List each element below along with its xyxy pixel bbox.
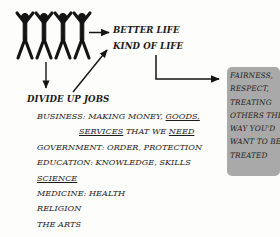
label-kind-of-life: KIND OF LIFE (113, 42, 183, 51)
stick-figure-2 (36, 13, 52, 58)
callout-line: WAY YOU'D (230, 122, 280, 135)
job-line-business: BUSINESS: MAKING MONEY, GOODS, (37, 109, 227, 124)
job-segment: BUSINESS: MAKING MONEY, (37, 111, 166, 121)
arrow-to-callout (156, 55, 219, 79)
job-segment: MEDICINE: HEALTH (37, 188, 125, 198)
stick-figures-group (14, 8, 96, 62)
jobs-list: BUSINESS: MAKING MONEY, GOODS,SERVICES T… (37, 109, 227, 232)
callout-line: RESPECT, (230, 82, 280, 95)
job-line-science: SCIENCE (37, 171, 227, 186)
job-segment: NEED (169, 126, 195, 136)
callout-line: TREATING (230, 96, 280, 109)
callout-line: WANT TO BE (230, 135, 280, 148)
stick-figures-svg (14, 8, 96, 62)
job-segment: SERVICES (79, 126, 123, 136)
callout-line: FAIRNESS, (230, 69, 280, 82)
job-segment: THE ARTS (37, 219, 81, 229)
job-line-medicine: MEDICINE: HEALTH (37, 186, 227, 201)
job-segment: THAT WE (123, 126, 169, 136)
job-line-religion: RELIGION (37, 201, 227, 216)
job-line-government: GOVERNMENT: ORDER, PROTECTION (37, 140, 227, 155)
job-line-business-cont: SERVICES THAT WE NEED (37, 124, 227, 139)
job-segment: GOODS, (166, 111, 200, 121)
job-line-the-arts: THE ARTS (37, 217, 227, 232)
callout-line: OTHERS THE (230, 109, 280, 122)
callout-text: FAIRNESS,RESPECT,TREATINGOTHERS THEWAY Y… (230, 69, 280, 162)
job-line-education: EDUCATION: KNOWLEDGE, SKILLS (37, 155, 227, 170)
diagram-canvas: BETTER LIFE KIND OF LIFE DIVIDE UP JOBS … (0, 0, 280, 237)
stick-figure-1 (17, 13, 33, 58)
job-segment: GOVERNMENT: ORDER, PROTECTION (37, 142, 202, 152)
callout-line: TREATED (230, 149, 280, 162)
job-segment: EDUCATION: KNOWLEDGE, SKILLS (37, 157, 191, 167)
label-better-life: BETTER LIFE (113, 26, 180, 35)
stick-figure-3 (55, 13, 71, 58)
stick-figure-4 (74, 13, 90, 58)
job-segment: SCIENCE (37, 173, 77, 183)
heading-divide-up-jobs: DIVIDE UP JOBS (27, 95, 109, 104)
job-segment: RELIGION (37, 203, 81, 213)
